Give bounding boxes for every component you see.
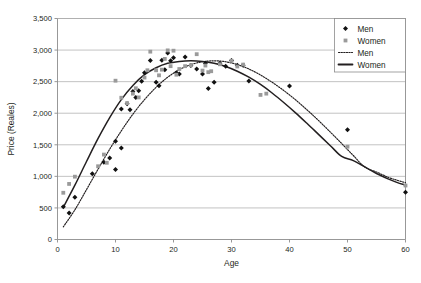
data-point-women-26 xyxy=(195,52,199,56)
scatter-plot: 05001,0001,5002,0002,5003,0003,500010203… xyxy=(0,0,421,283)
data-point-women-31 xyxy=(218,62,222,66)
legend-label-2: Men xyxy=(358,49,374,58)
data-point-women-17 xyxy=(160,68,164,72)
data-point-women-8 xyxy=(125,101,129,105)
data-point-women-4 xyxy=(102,153,106,157)
data-point-women-33 xyxy=(235,65,239,69)
data-point-women-24 xyxy=(183,64,187,68)
data-point-women-36 xyxy=(264,92,268,96)
data-point-women-38 xyxy=(404,184,408,188)
y-tick-label-3000: 3,000 xyxy=(33,46,52,55)
data-point-women-19 xyxy=(166,48,170,52)
data-point-women-0 xyxy=(61,191,65,195)
y-tick-label-1000: 1,000 xyxy=(33,172,52,181)
data-point-women-14 xyxy=(148,50,152,54)
data-point-women-10 xyxy=(134,86,138,90)
x-tick-label-10: 10 xyxy=(111,245,119,254)
legend: MenWomenMenWomen xyxy=(335,19,406,73)
data-point-women-12 xyxy=(143,76,147,80)
data-point-women-3 xyxy=(96,164,100,168)
data-point-women-28 xyxy=(204,64,208,68)
data-point-women-27 xyxy=(201,69,205,73)
data-point-women-2 xyxy=(73,175,77,179)
data-point-women-37 xyxy=(346,145,350,149)
data-point-women-34 xyxy=(241,63,245,67)
x-axis-title: Age xyxy=(224,258,239,268)
y-tick-label-3500: 3,500 xyxy=(33,14,52,23)
data-point-women-21 xyxy=(172,49,176,53)
x-tick-label-40: 40 xyxy=(285,245,293,254)
data-point-women-11 xyxy=(137,96,141,100)
data-point-women-22 xyxy=(175,73,179,77)
data-point-women-6 xyxy=(114,79,118,83)
data-point-women-13 xyxy=(146,68,150,72)
y-tick-label-2500: 2,500 xyxy=(33,77,52,86)
data-point-women-32 xyxy=(230,59,234,63)
chart-figure: 05001,0001,5002,0002,5003,0003,500010203… xyxy=(0,0,421,283)
y-tick-label-0: 0 xyxy=(48,235,52,244)
data-point-women-20 xyxy=(169,64,173,68)
data-point-women-16 xyxy=(157,73,161,77)
x-tick-label-50: 50 xyxy=(343,245,351,254)
x-tick-label-30: 30 xyxy=(227,245,235,254)
data-point-women-5 xyxy=(105,161,109,165)
data-point-women-23 xyxy=(177,67,181,71)
y-axis-title: Price (Reales) xyxy=(6,102,16,155)
y-tick-label-500: 500 xyxy=(39,204,52,213)
legend-label-3: Women xyxy=(358,61,387,70)
data-point-women-1 xyxy=(67,182,71,186)
data-point-women-18 xyxy=(163,57,167,61)
data-point-women-7 xyxy=(119,96,123,100)
y-tick-label-2000: 2,000 xyxy=(33,109,52,118)
data-point-women-35 xyxy=(259,93,263,97)
data-point-women-25 xyxy=(189,63,193,67)
data-point-women-9 xyxy=(131,92,135,96)
legend-label-0: Men xyxy=(358,25,374,34)
y-tick-label-1500: 1,500 xyxy=(33,141,52,150)
data-point-women-30 xyxy=(209,69,213,73)
x-tick-label-0: 0 xyxy=(55,245,59,254)
legend-marker-square-women xyxy=(344,39,348,43)
x-tick-label-60: 60 xyxy=(401,245,409,254)
legend-label-1: Women xyxy=(358,37,387,46)
data-point-women-15 xyxy=(154,68,158,72)
x-tick-label-20: 20 xyxy=(169,245,177,254)
